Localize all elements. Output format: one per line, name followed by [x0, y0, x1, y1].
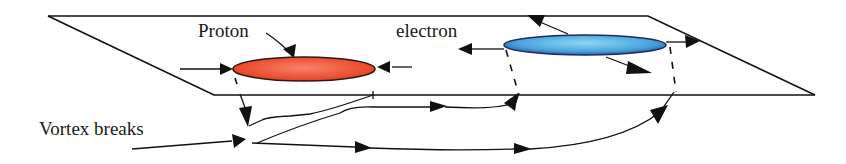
vortex-flow-lines	[132, 91, 674, 154]
proton-pointer-arrow-icon	[266, 33, 296, 58]
proton-label: Proton	[198, 20, 249, 41]
vortex-breaks-label: Vortex breaks	[39, 118, 144, 139]
proton-vortex-dash	[235, 78, 237, 84]
vortex-diagram: Proton electron	[0, 0, 846, 164]
proton-disk	[233, 57, 375, 81]
electron-label: electron	[396, 20, 458, 41]
electron-disk	[504, 35, 666, 55]
